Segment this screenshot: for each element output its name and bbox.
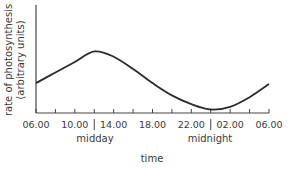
x-tick-label: 10.00 xyxy=(61,119,88,130)
x-tick-label: 22.00 xyxy=(178,119,205,130)
x-tick-label: 06.00 xyxy=(255,119,282,130)
x-tick-label: 18.00 xyxy=(139,119,166,130)
photosynthesis-curve xyxy=(36,51,269,109)
x-tick-labels: 06.0010.0014.0018.0022.0002.0006.00 xyxy=(22,119,282,130)
x-tick-label: 02.00 xyxy=(217,119,244,130)
photosynthesis-chart: 06.0010.0014.0018.0022.0002.0006.00 midd… xyxy=(0,0,288,169)
midday-annotation: midday xyxy=(76,133,113,144)
x-axis-label: time xyxy=(141,153,164,164)
y-axis-label-line2: (arbitrary units) xyxy=(15,20,26,99)
x-tick-label: 06.00 xyxy=(22,119,49,130)
x-tick-label: 14.00 xyxy=(100,119,127,130)
y-axis-label-line1: rate of photosynthesis xyxy=(3,4,14,116)
midnight-annotation: midnight xyxy=(188,133,233,144)
